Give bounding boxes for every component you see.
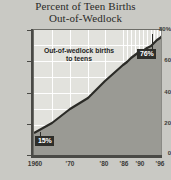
series-annotation-line-1: Out-of-wedlock births	[34, 47, 124, 55]
chart-figure: Percent of Teen Births Out-of-Wedlock	[0, 0, 171, 180]
y-tick-60	[27, 61, 32, 62]
y-axis-label-40: 40	[145, 89, 171, 95]
end-value-leader	[152, 34, 153, 49]
chart-title-line-1: Percent of Teen Births	[0, 1, 171, 13]
y-axis-label-20: 20	[145, 120, 171, 126]
x-axis-line	[31, 155, 162, 158]
y-axis-label-80: 80%	[145, 26, 171, 32]
x-axis-label-1970: '70	[66, 160, 75, 167]
chart-title-line-2: Out-of-Wedlock	[0, 13, 171, 25]
x-axis-label-1996: '96	[156, 160, 165, 167]
y-tick-20	[27, 124, 32, 125]
series-annotation-line-2: to teens	[34, 55, 124, 63]
x-axis-label-1986: '86	[120, 160, 129, 167]
x-axis-label-1980: '80	[100, 160, 109, 167]
y-tick-0	[27, 155, 32, 156]
y-tick-80	[27, 30, 32, 31]
end-value-callout: 76%	[137, 49, 156, 59]
series-annotation: Out-of-wedlock births to teens	[34, 47, 124, 63]
y-axis-label-0: 0	[145, 150, 171, 156]
y-tick-40	[27, 93, 32, 94]
x-axis-label-1990: '90	[136, 160, 145, 167]
x-axis-label-1960: 1960	[28, 160, 42, 167]
start-value-callout: 15%	[35, 136, 54, 146]
chart-title: Percent of Teen Births Out-of-Wedlock	[0, 1, 171, 24]
